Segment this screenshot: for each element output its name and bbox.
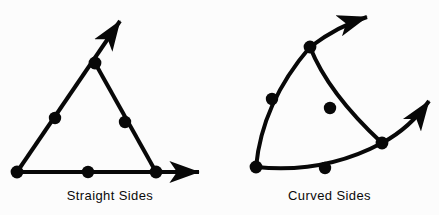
vertex-dot-bottom-right: [150, 166, 163, 179]
panel-curved-sides: Curved Sides: [220, 0, 439, 215]
midpoint-dot-base: [82, 166, 94, 178]
caption-curved-sides: Curved Sides: [220, 188, 439, 203]
panel-straight-sides: Straight Sides: [0, 0, 220, 215]
left-side-segment-with-ray: [17, 21, 120, 172]
base-arc-with-ray: [256, 101, 429, 168]
caption-straight-sides: Straight Sides: [0, 188, 220, 203]
straight-sides-diagram: [0, 0, 220, 215]
right-arc: [310, 47, 382, 143]
figure-root: Straight Sides Curved Sides: [0, 0, 439, 215]
vertex-dot-apex: [89, 57, 102, 70]
midpoint-dot-left-arc: [266, 93, 278, 105]
left-arc-with-ray: [256, 17, 367, 167]
vertex-dot-bottom-left: [250, 161, 263, 174]
midpoint-dot-base-arc: [319, 162, 331, 174]
midpoint-dot-right-side: [119, 116, 131, 128]
vertex-dot-top: [304, 41, 317, 54]
midpoint-dot-right-arc: [324, 102, 336, 114]
vertex-dot-bottom-left: [11, 166, 24, 179]
vertex-dot-right: [376, 137, 389, 150]
midpoint-dot-left-side: [49, 112, 61, 124]
curved-sides-diagram: [220, 0, 439, 215]
